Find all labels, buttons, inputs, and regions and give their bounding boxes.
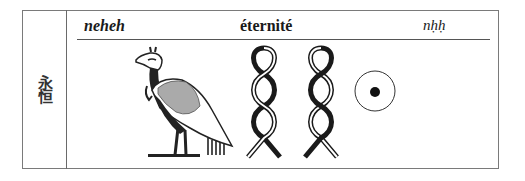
bird-icon xyxy=(136,47,232,157)
hieroglyph-group xyxy=(0,0,525,181)
sun-disk-icon xyxy=(355,71,395,111)
twisted-flax-icon xyxy=(305,48,337,157)
twisted-flax-icon xyxy=(248,48,280,157)
